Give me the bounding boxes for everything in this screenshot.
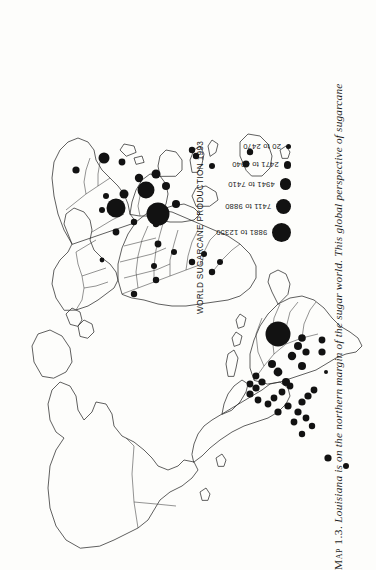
figure-page: WORLD SUGARCANE PRODUCTION 1993 9881 to … (0, 0, 376, 570)
symbol-medium (99, 153, 110, 164)
symbol-small (113, 229, 120, 236)
symbol-small (298, 334, 306, 342)
symbol-small (288, 352, 296, 360)
symbol-small (252, 384, 259, 391)
legend-class-label: 7411 to 9880 (225, 202, 271, 211)
legend-class-item: 20 to 2470 (243, 143, 291, 152)
symbol-small (99, 207, 105, 213)
symbol-small (299, 431, 305, 437)
symbol-small (103, 193, 109, 199)
symbol-small (287, 383, 294, 390)
legend-symbol-circle (276, 199, 291, 214)
symbol-small (274, 368, 283, 377)
symbol-small (162, 182, 170, 190)
symbol-small (189, 147, 195, 153)
symbol-louisiana (324, 454, 331, 461)
symbol-small (152, 170, 161, 179)
symbol-small (72, 166, 79, 173)
legend-class-label: 20 to 2470 (243, 143, 281, 152)
symbol-small (171, 249, 177, 255)
symbol-small (119, 159, 126, 166)
symbol-small (309, 423, 315, 429)
legend-class-item: 4941 to 7410 (228, 179, 291, 191)
legend-class-label: 9881 to 12350 (216, 228, 267, 237)
legend-symbol-circle (280, 179, 292, 191)
symbol-tiny (324, 370, 328, 374)
symbol-small (298, 362, 306, 370)
rotated-page-content: WORLD SUGARCANE PRODUCTION 1993 9881 to … (0, 0, 376, 570)
symbol-small (120, 190, 129, 199)
symbol-small (304, 392, 311, 399)
legend-symbol-circle (272, 223, 291, 242)
symbol-small (271, 395, 278, 402)
symbol-small (311, 387, 318, 394)
symbol-small (265, 401, 272, 408)
symbol-tiny (100, 258, 105, 263)
symbol-large (107, 199, 126, 218)
symbol-small (294, 408, 301, 415)
map-legend: WORLD SUGARCANE PRODUCTION 1993 9881 to … (196, 132, 320, 314)
symbol-small (274, 408, 281, 415)
symbol-small (284, 402, 291, 409)
figure-number: Map 1.3. (332, 526, 344, 570)
symbol-small (153, 221, 159, 227)
symbol-small (303, 415, 310, 422)
legend-symbol-circle (284, 161, 292, 169)
symbol-small (151, 263, 157, 269)
symbol-small (189, 259, 195, 265)
symbol-small (319, 337, 326, 344)
legend-symbol-circle (286, 145, 291, 150)
symbol-small (135, 174, 143, 182)
symbol-small (294, 342, 302, 350)
legend-class-item: 9881 to 12350 (216, 223, 291, 242)
legend-class-item: 7411 to 9880 (225, 199, 291, 214)
symbol-small (153, 277, 159, 283)
symbol-small (253, 373, 260, 380)
legend-class-label: 4941 to 7410 (228, 180, 275, 189)
symbol-small (291, 419, 298, 426)
symbol-small (268, 360, 276, 368)
legend-title: WORLD SUGARCANE PRODUCTION 1993 (196, 141, 205, 314)
symbol-small (258, 378, 265, 385)
figure-caption-text: Louisiana is on the northern margin of t… (332, 84, 344, 523)
symbol-small (131, 291, 137, 297)
symbol-largest (266, 322, 291, 347)
symbol-small (279, 389, 286, 396)
symbol-small (155, 241, 162, 248)
legend-class-list: 9881 to 12350 7411 to 9880 4941 to 7410 … (216, 143, 291, 243)
symbol-small (247, 381, 254, 388)
symbol-small (246, 390, 253, 397)
symbol-small (298, 398, 305, 405)
symbol-small (131, 219, 137, 225)
symbol-large (138, 182, 155, 199)
figure-caption: Map 1.3. Louisiana is on the northern ma… (332, 10, 344, 570)
symbol-small (302, 348, 309, 355)
symbol-small (318, 348, 325, 355)
legend-class-item: 2471 to 4940 (232, 161, 291, 170)
symbol-small (172, 200, 180, 208)
symbol-small (255, 397, 262, 404)
legend-class-label: 2471 to 4940 (232, 161, 279, 170)
